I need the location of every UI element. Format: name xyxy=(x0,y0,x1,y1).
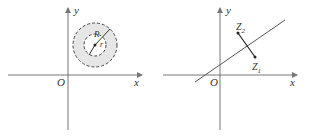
segment-z1z2 xyxy=(238,33,255,57)
x-label: x xyxy=(133,76,139,88)
origin-label: O xyxy=(57,76,65,88)
point-z1 xyxy=(254,56,257,59)
x-label: x xyxy=(289,76,295,88)
figure-canvas: y x O R r y x O Z2 Z1 xyxy=(0,0,313,137)
center-point xyxy=(94,44,97,47)
y-label: y xyxy=(73,4,79,16)
right-figure: y x O Z2 Z1 xyxy=(163,4,297,130)
y-label: y xyxy=(225,4,231,16)
origin-label: O xyxy=(210,76,218,88)
outer-radius-label: R xyxy=(93,29,100,39)
z1-label: Z1 xyxy=(252,61,261,75)
left-figure: y x O R r xyxy=(8,4,142,130)
